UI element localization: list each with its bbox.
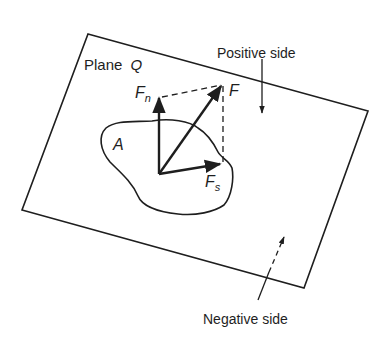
- plane-label: Plane Q: [84, 56, 143, 73]
- vector-f-arrow: [159, 86, 221, 174]
- fs-label: Fs: [205, 173, 221, 193]
- negative-side-arrow-dashed: [269, 237, 284, 272]
- dashed-fn-to-f: [162, 85, 221, 97]
- positive-side-label: Positive side: [217, 45, 296, 61]
- diagram-canvas: Plane Q Fn F A Fs Positive side Negative…: [0, 0, 379, 346]
- plane-q-outline: [22, 34, 368, 288]
- area-a-outline: [101, 120, 233, 215]
- f-label: F: [229, 82, 240, 99]
- fn-label: Fn: [135, 84, 151, 104]
- area-label: A: [112, 136, 124, 153]
- negative-side-label: Negative side: [203, 311, 288, 327]
